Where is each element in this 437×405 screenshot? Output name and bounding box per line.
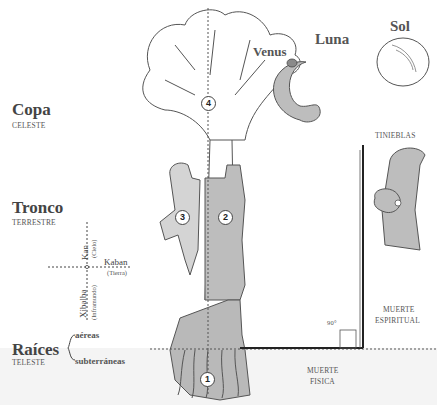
sun <box>377 38 429 86</box>
muerte-fisica-2: FISICA <box>310 377 335 386</box>
marker-1: 1 <box>200 372 215 387</box>
right-angle-mark <box>340 330 356 348</box>
kan-sub: (Cielo) <box>90 240 97 258</box>
luna-label: Luna <box>315 31 349 48</box>
raices-subterraneas: subterráneas <box>75 356 125 366</box>
tinieblas-dot <box>395 200 401 206</box>
venus-label: Venus <box>253 44 286 60</box>
right-angle-label: 90° <box>327 319 337 326</box>
muerte-fisica-1: MUERTE <box>307 366 339 375</box>
axis-center <box>85 265 88 268</box>
diagram-art <box>0 0 437 405</box>
venus <box>287 59 297 67</box>
marker-2: 2 <box>218 210 233 225</box>
raices-aereas: aéreas <box>75 330 99 340</box>
copa-sub: CELESTE <box>12 121 45 130</box>
tinieblas-label: TINIEBLAS <box>375 131 416 140</box>
copa-title: Copa <box>12 100 51 120</box>
xibalba-sub: (Inframundo) <box>90 285 97 320</box>
marker-4: 4 <box>201 96 216 111</box>
marker-3: 3 <box>175 210 190 225</box>
world-tree-diagram: Copa CELESTE Tronco TERRESTRE Raíces TEL… <box>0 0 437 405</box>
sol-label: Sol <box>390 18 410 35</box>
kan-label: Kan <box>80 245 90 260</box>
muerte-espiritual-1: MUERTE <box>383 305 415 314</box>
raices-title: Raíces <box>12 340 59 360</box>
tronco-title: Tronco <box>12 198 63 218</box>
xibalba-label: Xibalba <box>78 290 88 319</box>
canopy <box>143 10 300 140</box>
kaban-label: Kaban <box>104 257 128 267</box>
serpent-column <box>205 165 245 300</box>
raices-sub: TELESTE <box>12 358 45 367</box>
tronco-sub: TERRESTRE <box>12 218 56 227</box>
muerte-espiritual-2: ESPIRITUAL <box>375 316 420 325</box>
kaban-sub: (Tierra) <box>107 269 127 276</box>
